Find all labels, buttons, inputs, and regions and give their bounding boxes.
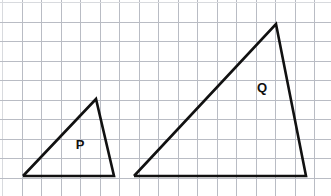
geometry-figure: PQ [0,0,331,196]
triangle-q-label: Q [257,80,267,95]
worksheet-canvas: PQ [0,0,331,196]
canvas-background [0,0,331,196]
triangle-p-label: P [76,137,85,152]
